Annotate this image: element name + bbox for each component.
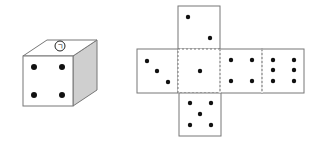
net-face-right-1 <box>220 49 262 93</box>
top-face-label: ㄱ <box>57 43 63 51</box>
pip <box>292 58 296 62</box>
cube-front-face <box>23 56 73 106</box>
pip <box>271 58 275 62</box>
pip <box>198 112 202 116</box>
pip <box>292 68 296 72</box>
pip <box>198 69 202 73</box>
pip <box>155 69 159 73</box>
cube: ㄱ <box>23 40 97 106</box>
net-face-top <box>178 6 220 49</box>
pip <box>271 79 275 83</box>
pip <box>208 36 212 40</box>
pip <box>188 101 192 105</box>
pip <box>188 123 192 127</box>
net-face-right-2 <box>262 49 304 93</box>
pip <box>209 101 213 105</box>
pip <box>186 15 190 19</box>
dice-diagram: ㄱ <box>0 0 322 150</box>
pip <box>229 79 233 83</box>
pip <box>271 68 275 72</box>
pip <box>250 79 254 83</box>
pip <box>229 58 233 62</box>
pip <box>166 80 170 84</box>
pip <box>250 58 254 62</box>
die-net <box>137 6 304 136</box>
pip <box>292 79 296 83</box>
pip <box>145 59 149 63</box>
pip <box>209 123 213 127</box>
